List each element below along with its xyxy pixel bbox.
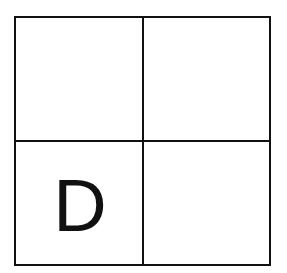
cell-bottom-right	[144, 142, 269, 264]
cell-label: D	[53, 169, 106, 243]
cell-bottom-left: D	[16, 142, 142, 264]
cell-top-left	[16, 18, 142, 140]
cell-top-right	[144, 18, 269, 140]
